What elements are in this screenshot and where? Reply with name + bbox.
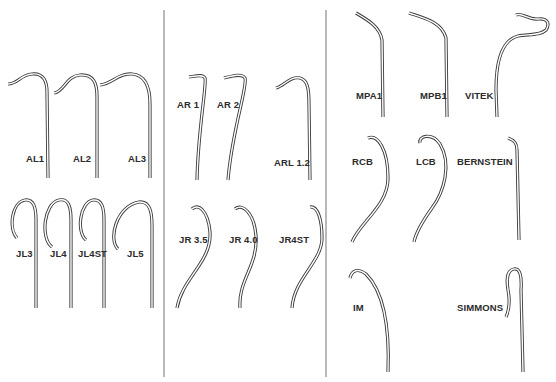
label-lcb: LCB: [416, 156, 436, 167]
catheter-rcb: [352, 137, 388, 242]
catheter-mpb1: [409, 13, 447, 117]
catheter-vitek: [496, 14, 548, 117]
label-ar2: AR 2: [217, 99, 239, 110]
catheter-ar1: [189, 76, 205, 180]
label-ar1: AR 1: [177, 99, 199, 110]
label-jl4st: JL4ST: [78, 248, 107, 259]
catheter-diagram: [0, 0, 556, 382]
label-jr4st: JR4ST: [279, 234, 309, 245]
label-simmons: SIMMONS: [457, 302, 503, 313]
catheter-jr35: [177, 207, 210, 308]
label-mpb1: MPB1: [420, 90, 447, 101]
label-jl4: JL4: [50, 248, 67, 259]
catheter-jr4st: [292, 207, 322, 308]
label-arl12: ARL 1.2: [274, 157, 310, 168]
label-vitek: VITEK: [465, 90, 493, 101]
catheter-ar2: [224, 75, 245, 180]
label-jl3: JL3: [16, 248, 33, 259]
label-jr35: JR 3.5: [179, 234, 208, 245]
label-al3: AL3: [128, 153, 146, 164]
label-al2: AL2: [73, 153, 91, 164]
label-mpa1: MPA1: [356, 90, 382, 101]
label-im: IM: [353, 302, 364, 313]
label-jr40: JR 4.0: [229, 234, 258, 245]
catheter-mpa1: [356, 13, 383, 117]
label-al1: AL1: [26, 153, 44, 164]
catheter-bernstein: [508, 138, 519, 240]
catheter-jr40: [235, 207, 256, 308]
label-rcb: RCB: [352, 156, 373, 167]
catheter-im: [350, 271, 388, 372]
catheter-simmons: [506, 269, 523, 372]
label-jl5: JL5: [127, 248, 144, 259]
catheter-lcb: [414, 136, 446, 242]
label-bernstein: BERNSTEIN: [457, 156, 513, 167]
